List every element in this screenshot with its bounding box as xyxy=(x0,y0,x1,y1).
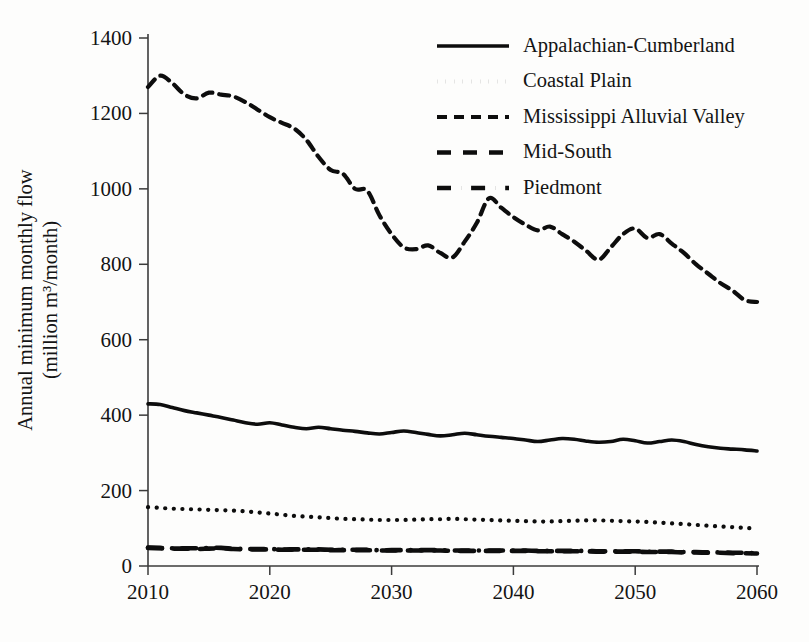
legend-label: Coastal Plain xyxy=(523,69,632,91)
y-tick-label: 0 xyxy=(122,554,133,578)
x-tick-label: 2020 xyxy=(249,580,291,604)
x-tick-label: 2040 xyxy=(492,580,534,604)
y-tick-label: 600 xyxy=(101,328,133,352)
y-axis-ticks: 0200400600800100012001400 xyxy=(90,26,148,578)
y-tick-label: 200 xyxy=(101,479,133,503)
x-tick-label: 2030 xyxy=(371,580,413,604)
line-chart: Annual minimum monthly flow (million m³/… xyxy=(0,0,809,642)
y-axis-title-line1: Annual minimum monthly flow xyxy=(14,169,37,431)
series-line-appalachian-cumberland xyxy=(148,404,757,451)
legend-label: Mid-South xyxy=(523,140,612,162)
legend-label: Piedmont xyxy=(523,176,602,198)
x-tick-label: 2010 xyxy=(127,580,169,604)
y-tick-label: 1200 xyxy=(90,101,132,125)
y-tick-label: 1000 xyxy=(90,177,132,201)
chart-page: Annual minimum monthly flow (million m³/… xyxy=(0,0,809,642)
series-group xyxy=(148,76,757,554)
y-tick-label: 1400 xyxy=(90,26,132,50)
series-line-piedmont xyxy=(148,548,757,554)
x-tick-label: 2060 xyxy=(736,580,778,604)
legend-label: Appalachian-Cumberland xyxy=(523,34,735,57)
x-tick-label: 2050 xyxy=(614,580,656,604)
y-tick-label: 800 xyxy=(101,252,133,276)
chart-legend: Appalachian-CumberlandCoastal PlainMissi… xyxy=(437,34,745,198)
y-axis-title-line2: (million m³/month) xyxy=(39,221,62,379)
x-axis-ticks: 201020202030204020502060 xyxy=(127,566,778,604)
legend-label: Mississippi Alluvial Valley xyxy=(523,105,745,128)
y-tick-label: 400 xyxy=(101,403,133,427)
series-line-coastal-plain xyxy=(148,507,757,528)
